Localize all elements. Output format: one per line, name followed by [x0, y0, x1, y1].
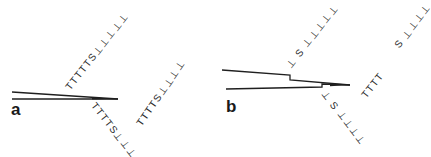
panel-b-label: b [226, 98, 236, 115]
figure: a b TTTTTS⊥⊥⊥⊥⊥ TTTTS⊥⊥⊥⊥ TTTTS⊥⊥⊥⊥ ⊥ S … [0, 0, 431, 157]
panel-b-strand-lines [0, 0, 431, 157]
panel-a-label: a [11, 101, 20, 118]
